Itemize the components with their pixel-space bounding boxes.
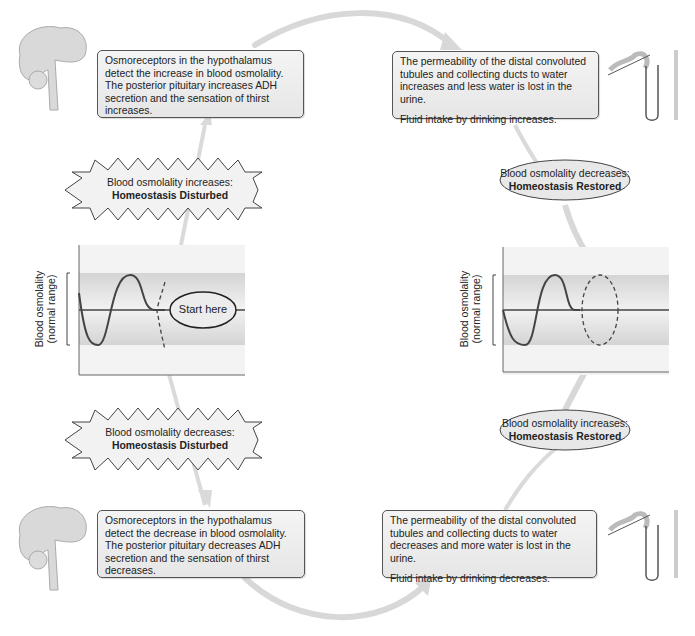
- nephron-icon-top: [608, 50, 676, 120]
- brain-icon-top: [19, 27, 86, 110]
- oval-top: Blood osmolality decreases: Homeostasis …: [500, 167, 630, 193]
- bottom-left-box: Osmoreceptors in the hypothalamus detect…: [97, 510, 305, 578]
- top-right-box-text1: The permeability of the distal convolute…: [400, 56, 591, 106]
- bottom-left-box-text: Osmoreceptors in the hypothalamus detect…: [105, 515, 297, 578]
- burst-bottom-line1: Blood osmolality decreases:: [105, 427, 234, 438]
- graph-right: [493, 247, 669, 375]
- arrow-box-to-oval-bottom: [505, 445, 560, 510]
- oval-top-line2: Homeostasis Restored: [500, 180, 630, 193]
- oval-bottom-line2: Homeostasis Restored: [500, 430, 630, 443]
- burst-bottom-line2: Homeostasis Disturbed: [82, 439, 258, 452]
- brain-icon-bottom: [19, 507, 86, 590]
- arrow-top-arc: [255, 13, 462, 50]
- graph-right-ylabel-line1: Blood osmolality: [458, 259, 470, 359]
- top-right-box: The permeability of the distal convolute…: [392, 51, 599, 119]
- top-left-box: Osmoreceptors in the hypothalamus detect…: [97, 50, 304, 118]
- oval-bottom-line1: Blood osmolality increases:: [502, 418, 628, 429]
- graph-right-ylabel-line2: (normal range): [470, 259, 482, 359]
- burst-top-line2: Homeostasis Disturbed: [82, 189, 258, 202]
- burst-top-line1: Blood osmolality increases:: [107, 177, 233, 188]
- nephron-icon-bottom: [608, 510, 676, 580]
- bottom-right-box-text2: Fluid intake by drinking decreases.: [390, 573, 589, 586]
- top-left-box-text: Osmoreceptors in the hypothalamus detect…: [105, 55, 296, 118]
- graph-left-ylabel: Blood osmolality (normal range): [33, 259, 57, 359]
- burst-top: Blood osmolality increases: Homeostasis …: [82, 176, 258, 202]
- top-right-box-text2: Fluid intake by drinking increases.: [400, 114, 591, 127]
- burst-bottom: Blood osmolality decreases: Homeostasis …: [82, 426, 258, 452]
- start-here-label: Start here: [170, 303, 236, 315]
- oval-top-line1: Blood osmolality decreases:: [500, 168, 629, 179]
- graph-left-ylabel-line2: (normal range): [45, 259, 57, 359]
- oval-bottom: Blood osmolality increases: Homeostasis …: [500, 417, 630, 443]
- graph-right-ylabel: Blood osmolality (normal range): [458, 259, 482, 359]
- bottom-right-box: The permeability of the distal convolute…: [382, 510, 597, 578]
- graph-left-ylabel-line1: Blood osmolality: [33, 259, 45, 359]
- bottom-right-box-text1: The permeability of the distal convolute…: [390, 515, 589, 565]
